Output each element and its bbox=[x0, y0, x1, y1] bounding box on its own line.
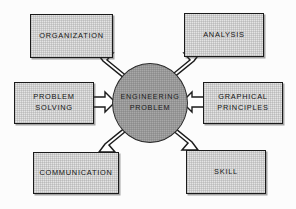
center-node-label: ENGINEERING PROBLEM bbox=[120, 92, 179, 114]
node-problem-solving-label: PROBLEM SOLVING bbox=[33, 92, 74, 113]
node-graphical-principles-label: GRAPHICAL PRINCIPLES bbox=[217, 92, 268, 113]
node-problem-solving[interactable]: PROBLEM SOLVING bbox=[14, 82, 94, 124]
center-node-engineering-problem[interactable]: ENGINEERING PROBLEM bbox=[112, 63, 188, 143]
node-graphical-principles[interactable]: GRAPHICAL PRINCIPLES bbox=[203, 82, 283, 124]
node-analysis[interactable]: ANALYSIS bbox=[184, 13, 264, 57]
node-skill[interactable]: SKILL bbox=[186, 150, 266, 194]
node-organization-label: ORGANIZATION bbox=[39, 31, 104, 42]
node-organization[interactable]: ORGANIZATION bbox=[30, 14, 113, 58]
diagram-canvas: ENGINEERING PROBLEM ORGANIZATION ANALYSI… bbox=[0, 0, 296, 209]
node-analysis-label: ANALYSIS bbox=[203, 30, 245, 41]
node-communication-label: COMMUNICATION bbox=[39, 168, 112, 179]
node-skill-label: SKILL bbox=[214, 167, 238, 178]
node-communication[interactable]: COMMUNICATION bbox=[33, 152, 119, 194]
